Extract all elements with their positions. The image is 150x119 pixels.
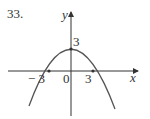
graph-figure: 33. y x 0 3 − 3 3: [0, 0, 150, 119]
pos-intercept-point: [91, 69, 94, 72]
origin-label: 0: [63, 71, 70, 86]
parabola-graph: y x 0 3 − 3 3: [0, 0, 150, 119]
neg-intercept-label: − 3: [28, 71, 45, 86]
neg-intercept-point: [47, 69, 50, 72]
x-axis-label: x: [129, 70, 136, 85]
pos-intercept-label: 3: [85, 71, 92, 86]
y-axis-label: y: [60, 7, 68, 22]
vertex-label: 3: [73, 34, 80, 49]
